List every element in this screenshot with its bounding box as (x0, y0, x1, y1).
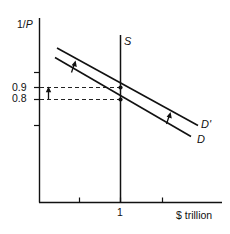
equilibrium-point-0-9 (118, 85, 122, 89)
demand-curve-shifted-label: D' (201, 119, 211, 130)
y-tick-label-0-8: 0.8 (12, 93, 27, 104)
economics-supply-demand-chart: 1/P $ trillion 0.9 0.8 1 S D' D (0, 0, 230, 234)
y-tick-label-0-9: 0.9 (12, 82, 27, 93)
chart-canvas (0, 0, 230, 234)
supply-curve-label: S (124, 36, 131, 47)
equilibrium-point-0-8 (118, 97, 122, 101)
y-axis-label-variable: P (26, 18, 33, 30)
y-axis-label: 1/P (17, 19, 33, 30)
y-axis-label-prefix: 1/ (17, 18, 26, 30)
demand-curve-label: D (197, 134, 205, 145)
lower-curve-shift-arrow-icon (167, 112, 172, 124)
axis-shift-arrow-icon (46, 87, 51, 100)
upper-curve-shift-arrow-icon (72, 61, 77, 73)
x-tick-label-1: 1 (117, 207, 123, 218)
x-axis-label: $ trillion (176, 210, 212, 221)
demand-curve-line (55, 58, 191, 137)
demand-curve-shifted-line (57, 48, 198, 126)
